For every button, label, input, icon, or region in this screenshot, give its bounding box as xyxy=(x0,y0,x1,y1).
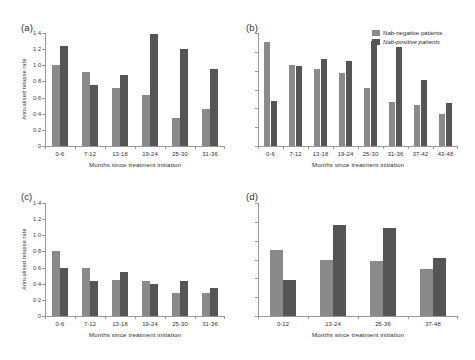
x-axis-title: Months since treatment initiation xyxy=(45,161,225,168)
bar-nab-positive xyxy=(210,288,218,316)
y-tick-label: 0·4 xyxy=(33,111,41,117)
bar-nab-negative xyxy=(52,65,60,146)
x-tick xyxy=(224,316,225,319)
bar-nab-positive xyxy=(321,59,328,146)
x-category-label: 25-30 xyxy=(172,151,188,157)
figure-multi-panel-bar-charts: (a)00·20·40·60·81·01·21·4Annualised rela… xyxy=(0,0,475,360)
y-tick xyxy=(255,278,258,279)
y-tick-label: 0·6 xyxy=(33,95,41,101)
x-category-label: 13-18 xyxy=(313,151,329,157)
x-tick xyxy=(408,146,409,149)
y-axis xyxy=(45,203,46,316)
bar-nab-positive xyxy=(210,69,218,146)
bar-nab-negative xyxy=(289,65,296,146)
x-axis-title: Months since treatment initiation xyxy=(45,331,225,338)
y-axis xyxy=(258,33,259,146)
legend-swatch-icon xyxy=(372,39,380,45)
legend-label: Nab-positive patients xyxy=(383,38,440,45)
legend-item: Nab-negative patients xyxy=(372,29,442,36)
x-tick xyxy=(135,146,136,149)
bar-nab-negative xyxy=(370,261,383,316)
bar-nab-positive xyxy=(120,75,128,146)
x-tick xyxy=(308,146,309,149)
y-tick-label: 0·4 xyxy=(33,281,41,287)
bar-nab-positive xyxy=(90,85,98,146)
bar-nab-positive xyxy=(346,61,353,146)
x-category-label: 43-48 xyxy=(438,151,454,157)
y-tick xyxy=(42,300,45,301)
bar-nab-negative xyxy=(339,73,346,146)
y-tick-label: 0·8 xyxy=(33,78,41,84)
y-tick xyxy=(42,130,45,131)
x-category-label: 37-42 xyxy=(413,151,429,157)
x-category-label: 0-6 xyxy=(56,321,65,327)
bar-nab-negative xyxy=(270,250,283,316)
bar-nab-positive xyxy=(296,66,303,146)
bar-nab-negative xyxy=(172,118,180,146)
y-tick xyxy=(42,203,45,204)
panel-d: (d)0-1213-2425-3637-48Months since treat… xyxy=(238,185,475,360)
panel-b: (b)0-67-1213-1819-2425-3031-3637-4243-48… xyxy=(238,0,475,185)
plot-area-c: 00·20·40·60·81·01·21·4Annualised relapse… xyxy=(45,203,225,316)
bar-nab-positive xyxy=(150,284,158,316)
bar-nab-positive xyxy=(271,101,278,146)
bar-nab-positive xyxy=(383,228,396,316)
x-tick xyxy=(308,316,309,319)
y-tick xyxy=(42,98,45,99)
y-tick-label: 1·4 xyxy=(33,200,41,206)
x-tick xyxy=(224,146,225,149)
panel-a: (a)00·20·40·60·81·01·21·4Annualised rela… xyxy=(0,0,240,185)
x-category-label: 7-12 xyxy=(84,321,96,327)
bar-nab-negative xyxy=(112,88,120,146)
y-tick xyxy=(255,260,258,261)
bar-nab-positive xyxy=(180,49,188,146)
bar-nab-positive xyxy=(90,281,98,317)
panel-label-d: (d) xyxy=(246,191,258,202)
y-tick xyxy=(42,235,45,236)
x-tick xyxy=(75,316,76,319)
y-tick-label: 1·0 xyxy=(33,62,41,68)
bar-nab-positive xyxy=(60,46,68,146)
x-tick xyxy=(258,316,259,319)
y-axis-title: Annualised relapse rate xyxy=(20,32,26,145)
bar-nab-positive xyxy=(333,225,346,316)
y-tick xyxy=(255,127,258,128)
y-tick-label: 1·2 xyxy=(33,46,41,52)
x-category-label: 31-36 xyxy=(202,151,218,157)
x-tick xyxy=(457,316,458,319)
bar-nab-negative xyxy=(414,105,421,146)
x-category-label: 31-36 xyxy=(202,321,218,327)
x-category-label: 37-48 xyxy=(425,321,441,327)
bar-nab-positive xyxy=(396,47,403,146)
bar-nab-negative xyxy=(314,69,321,146)
x-category-label: 25-30 xyxy=(363,151,379,157)
x-tick xyxy=(457,146,458,149)
bar-nab-positive xyxy=(446,103,453,146)
x-tick xyxy=(358,316,359,319)
x-category-label: 25-30 xyxy=(172,321,188,327)
bar-nab-negative xyxy=(112,280,120,316)
x-axis-title: Months since treatment initiation xyxy=(258,161,458,168)
x-tick xyxy=(433,146,434,149)
y-tick xyxy=(255,297,258,298)
x-category-label: 19-24 xyxy=(142,321,158,327)
y-tick-label: 1·4 xyxy=(33,30,41,36)
x-tick xyxy=(408,316,409,319)
x-category-label: 19-24 xyxy=(142,151,158,157)
bar-nab-negative xyxy=(389,102,396,146)
y-tick xyxy=(42,49,45,50)
bar-nab-negative xyxy=(82,72,90,146)
y-tick xyxy=(255,90,258,91)
bar-nab-positive xyxy=(60,268,68,316)
x-category-label: 0-6 xyxy=(266,151,275,157)
bar-nab-positive xyxy=(433,258,446,316)
y-axis-title: Annualised relapse rate xyxy=(20,202,26,315)
y-tick xyxy=(255,241,258,242)
x-tick xyxy=(165,316,166,319)
bar-nab-negative xyxy=(320,260,333,317)
x-category-label: 13-18 xyxy=(112,151,128,157)
x-tick xyxy=(333,146,334,149)
panel-label-a: (a) xyxy=(21,22,33,33)
y-tick-label: 0·8 xyxy=(33,248,41,254)
y-tick-label: 0·2 xyxy=(33,127,41,133)
